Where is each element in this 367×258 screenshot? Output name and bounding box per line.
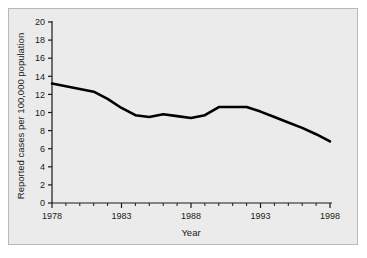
series-line <box>52 84 330 142</box>
line-chart: 02468101214161820 19781983198819931998 R… <box>0 0 367 258</box>
data-series-line <box>52 84 330 142</box>
x-axis-title: Year <box>181 227 200 238</box>
y-axis: 02468101214161820 <box>35 17 52 208</box>
x-tick-label: 1993 <box>250 211 270 221</box>
y-tick-label: 20 <box>35 17 45 27</box>
y-tick-label: 12 <box>35 90 45 100</box>
x-tick-label: 1998 <box>320 211 340 221</box>
y-tick-label: 2 <box>40 180 45 190</box>
y-tick-label: 18 <box>35 35 45 45</box>
y-tick-label: 10 <box>35 108 45 118</box>
x-tick-label: 1978 <box>42 211 62 221</box>
x-axis: 19781983198819931998 <box>42 203 340 221</box>
y-tick-label: 14 <box>35 72 45 82</box>
x-tick-label: 1983 <box>111 211 131 221</box>
y-tick-label: 0 <box>40 198 45 208</box>
y-axis-title: Reported cases per 100,000 population <box>15 33 26 199</box>
y-tick-label: 8 <box>40 126 45 136</box>
y-tick-label: 4 <box>40 162 45 172</box>
x-tick-label: 1988 <box>181 211 201 221</box>
chart-figure: 02468101214161820 19781983198819931998 R… <box>0 0 367 258</box>
y-tick-label: 6 <box>40 144 45 154</box>
y-tick-label: 16 <box>35 53 45 63</box>
